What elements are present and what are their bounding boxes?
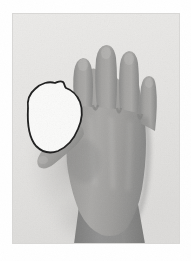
hand-photograph bbox=[12, 13, 180, 244]
photograph-canvas bbox=[12, 13, 180, 244]
film-grain bbox=[12, 13, 180, 244]
caption bbox=[12, 246, 180, 258]
page-root bbox=[0, 0, 191, 261]
